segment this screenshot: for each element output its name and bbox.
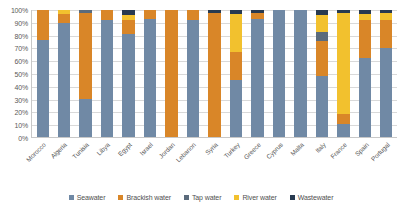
bar-segment[interactable] <box>79 13 91 99</box>
bar-segment[interactable] <box>37 10 49 40</box>
legend-item[interactable]: River water <box>234 194 276 201</box>
bar-segment[interactable] <box>359 58 371 137</box>
legend-item[interactable]: Brackish water <box>118 194 171 201</box>
bar-column[interactable] <box>139 10 160 137</box>
legend-label: Tap water <box>192 194 221 201</box>
bar-segment[interactable] <box>230 52 242 80</box>
bar-segment[interactable] <box>101 20 113 137</box>
legend-item[interactable]: Seawater <box>69 194 106 201</box>
bar-column[interactable] <box>225 10 246 137</box>
bar-segment[interactable] <box>359 20 371 58</box>
bar-segment[interactable] <box>187 10 199 20</box>
bar-segment[interactable] <box>37 40 49 137</box>
bar-column[interactable] <box>268 10 289 137</box>
legend-label: River water <box>242 194 276 201</box>
legend-swatch-icon <box>69 195 74 200</box>
bar-segment[interactable] <box>230 80 242 137</box>
bar-segment[interactable] <box>380 13 392 21</box>
stacked-bar[interactable] <box>79 10 91 137</box>
legend-label: Brackish water <box>126 194 171 201</box>
bar-segment[interactable] <box>316 76 328 137</box>
bar-segment[interactable] <box>337 114 349 124</box>
stacked-bar[interactable] <box>122 10 134 137</box>
x-axis-label: Tunisia <box>71 141 90 160</box>
stacked-bar[interactable] <box>337 10 349 137</box>
x-label-cell: Morocco <box>31 139 53 187</box>
legend-label: Wastewater <box>298 194 334 201</box>
y-axis-tick-label: 30% <box>15 96 28 103</box>
x-label-cell: Tunisia <box>74 139 96 187</box>
bar-column[interactable] <box>75 10 96 137</box>
stacked-bar[interactable] <box>251 10 263 137</box>
bar-segment[interactable] <box>144 19 156 137</box>
bar-column[interactable] <box>182 10 203 137</box>
bar-segment[interactable] <box>230 14 242 52</box>
bar-column[interactable] <box>376 10 397 137</box>
bar-column[interactable] <box>118 10 139 137</box>
x-label-cell: Syria <box>203 139 225 187</box>
x-label-cell: Lebanon <box>182 139 204 187</box>
stacked-bar[interactable] <box>230 10 242 137</box>
bar-segment[interactable] <box>144 10 156 19</box>
stacked-bar[interactable] <box>380 10 392 137</box>
x-axis-label: Malta <box>289 141 305 157</box>
legend-swatch-icon <box>290 195 295 200</box>
bar-column[interactable] <box>204 10 225 137</box>
bar-segment[interactable] <box>122 34 134 137</box>
bar-segment[interactable] <box>316 15 328 32</box>
stacked-bar[interactable] <box>273 10 285 137</box>
bar-column[interactable] <box>96 10 117 137</box>
bar-segment[interactable] <box>294 10 306 137</box>
x-axis-label: Italy <box>314 141 327 154</box>
bar-column[interactable] <box>354 10 375 137</box>
bar-segment[interactable] <box>273 10 285 137</box>
bar-segment[interactable] <box>337 13 349 115</box>
stacked-bar[interactable] <box>58 10 70 137</box>
bar-segment[interactable] <box>380 48 392 137</box>
bar-segment[interactable] <box>208 13 220 137</box>
stacked-bar[interactable] <box>359 10 371 137</box>
x-axis-label: Israel <box>139 141 155 157</box>
bar-segment[interactable] <box>251 19 263 137</box>
bar-column[interactable] <box>311 10 332 137</box>
stacked-bar[interactable] <box>208 10 220 137</box>
bar-segment[interactable] <box>380 20 392 48</box>
legend-item[interactable]: Tap water <box>184 194 221 201</box>
stacked-bar[interactable] <box>294 10 306 137</box>
bar-segment[interactable] <box>122 20 134 34</box>
bar-column[interactable] <box>53 10 74 137</box>
bar-segment[interactable] <box>316 41 328 77</box>
x-label-cell: Malta <box>289 139 311 187</box>
bar-column[interactable] <box>247 10 268 137</box>
x-axis-labels: MoroccoAlgeriaTunisiaLibyaEgyptIsraelJor… <box>31 139 397 187</box>
legend-swatch-icon <box>118 195 123 200</box>
bar-segment[interactable] <box>165 10 177 137</box>
stacked-bar[interactable] <box>187 10 199 137</box>
legend-label: Seawater <box>77 194 106 201</box>
bar-segment[interactable] <box>337 124 349 137</box>
x-label-cell: Libya <box>96 139 118 187</box>
stacked-bar[interactable] <box>101 10 113 137</box>
stacked-bar-chart: 0%10%20%30%40%50%60%70%80%90%100% Morocc… <box>0 0 402 210</box>
x-axis-label: Jordan <box>157 141 176 160</box>
x-label-cell: Turkey <box>225 139 247 187</box>
x-label-cell: Spain <box>354 139 376 187</box>
bar-segment[interactable] <box>58 14 70 23</box>
bar-segment[interactable] <box>316 32 328 41</box>
bar-column[interactable] <box>333 10 354 137</box>
legend-item[interactable]: Wastewater <box>290 194 334 201</box>
x-axis-label: Syria <box>204 141 219 156</box>
stacked-bar[interactable] <box>144 10 156 137</box>
stacked-bar[interactable] <box>37 10 49 137</box>
legend-swatch-icon <box>184 195 189 200</box>
chart-legend: SeawaterBrackish waterTap waterRiver wat… <box>0 189 402 205</box>
bar-segment[interactable] <box>101 10 113 20</box>
stacked-bar[interactable] <box>316 10 328 137</box>
stacked-bar[interactable] <box>165 10 177 137</box>
bar-segment[interactable] <box>187 20 199 137</box>
bar-column[interactable] <box>290 10 311 137</box>
bar-segment[interactable] <box>79 99 91 137</box>
bar-column[interactable] <box>32 10 53 137</box>
bar-column[interactable] <box>161 10 182 137</box>
bar-segment[interactable] <box>58 23 70 137</box>
